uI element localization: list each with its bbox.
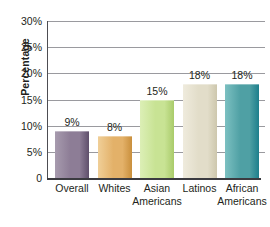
bar-top-highlight: [140, 100, 174, 101]
y-tick-label: 25%: [8, 42, 42, 52]
bar-value-label: 8%: [93, 122, 137, 133]
gridline-25: [47, 47, 265, 48]
bar-fill: [183, 84, 217, 178]
bar-asian-americans: [140, 100, 174, 179]
bar-african-americans: [225, 84, 259, 178]
x-axis-line: [47, 178, 261, 180]
y-axis-line: [47, 21, 48, 179]
bar-value-label: 18%: [220, 70, 264, 81]
bar-value-label: 9%: [50, 117, 94, 128]
bar-fill: [140, 100, 174, 179]
plot-area: 9%8%15%18%18%: [47, 21, 265, 178]
x-category-line1: Asian: [144, 182, 170, 194]
bar-latinos: [183, 84, 217, 178]
x-axis-category-labels: OverallWhitesAsianAmericansLatinosAfrica…: [47, 182, 269, 226]
y-tick-label: 5%: [8, 147, 42, 157]
x-category-line2: Americans: [126, 195, 188, 208]
gridline-30: [47, 21, 265, 22]
bar-fill: [225, 84, 259, 178]
x-category-label: AfricanAmericans: [211, 182, 270, 207]
y-tick-label: 0: [8, 173, 42, 183]
y-tick-label: 20%: [8, 68, 42, 78]
bar-value-label: 18%: [178, 70, 222, 81]
x-category-line1: African: [226, 182, 259, 194]
bar-overall: [55, 131, 89, 178]
y-axis-tick-labels: 30% 25% 20% 15% 10% 5% 0: [4, 0, 42, 227]
bar-fill: [55, 131, 89, 178]
bar-top-highlight: [55, 131, 89, 132]
bar-top-highlight: [183, 84, 217, 85]
y-tick-label: 10%: [8, 121, 42, 131]
bar-top-highlight: [225, 84, 259, 85]
x-category-line2: Americans: [211, 195, 270, 208]
bar-whites: [98, 136, 132, 178]
y-tick-label: 30%: [8, 16, 42, 26]
bar-chart: Percentage 30% 25% 20% 15% 10% 5% 0 9%8%…: [0, 0, 270, 227]
bar-value-label: 15%: [135, 86, 179, 97]
y-tick-label: 15%: [8, 95, 42, 105]
bar-top-highlight: [98, 136, 132, 137]
bar-fill: [98, 136, 132, 178]
